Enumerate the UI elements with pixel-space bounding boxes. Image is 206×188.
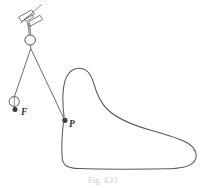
string-to-F [14, 49, 30, 97]
clamp-stem [28, 22, 31, 35]
string-to-P [31, 49, 65, 120]
closed-cam-curve [62, 68, 196, 169]
label-P: P [69, 120, 75, 130]
clamp-bracket-group [19, 5, 43, 27]
force-point-dot [13, 107, 18, 112]
label-F: F [21, 108, 27, 118]
figure-container: F P Fig. 4.12 [0, 0, 206, 188]
mechanics-diagram-svg [0, 0, 206, 188]
figure-caption: Fig. 4.12 [0, 176, 206, 185]
pulley-ring-icon [25, 35, 36, 45]
